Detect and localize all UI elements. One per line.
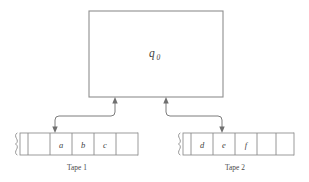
- head-connector-2-arrowhead-down: [219, 126, 224, 133]
- tape-1-cell-2-symbol: a: [59, 140, 63, 150]
- finite-control-unit: q 0: [89, 11, 223, 97]
- tape-1-left-brace-icon: [15, 133, 17, 155]
- head-connector-1-arrowhead-up: [112, 97, 117, 104]
- head-connector-1: [52, 97, 117, 133]
- head-connector-1-arrowhead-down: [52, 126, 57, 133]
- control-state-subscript: 0: [157, 53, 161, 62]
- tape-2-left-brace-icon: [178, 133, 180, 155]
- head-connector-2: [163, 97, 224, 133]
- tape-2: d e f Tape 2: [178, 133, 294, 172]
- head-connector-2-arrowhead-up: [163, 97, 168, 104]
- control-state-symbol: q: [149, 47, 155, 60]
- tape-1-caption: Tape 1: [67, 163, 87, 172]
- tape-1-body: [20, 133, 138, 155]
- head-connector-2-path: [166, 103, 222, 127]
- head-connector-1-path: [55, 103, 115, 127]
- tape-2-cell-2-symbol: e: [222, 140, 226, 150]
- turing-machine-diagram: q 0: [0, 0, 309, 182]
- tape-2-caption: Tape 2: [225, 163, 245, 172]
- diagram-canvas: q 0: [0, 0, 309, 182]
- tape-1-cell-4-symbol: c: [103, 140, 107, 150]
- tape-1: a b c Tape 1: [15, 133, 138, 172]
- tape-1-cell-3-symbol: b: [81, 140, 85, 150]
